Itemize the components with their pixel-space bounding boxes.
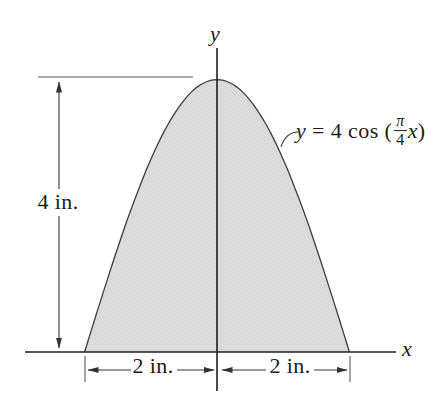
equation-close-paren: ) xyxy=(418,118,426,144)
width-dimension-label-left: 2 in. xyxy=(132,355,173,377)
equation-mid: = 4 cos ( xyxy=(306,118,392,144)
figure-canvas: y x 4 in. 2 in. 2 in. y = 4 cos (π4x) xyxy=(0,0,443,411)
fraction-denominator: 4 xyxy=(394,130,406,149)
width-dimension-label-right: 2 in. xyxy=(269,355,310,377)
fraction-pi-over-4: π4 xyxy=(394,113,406,149)
height-dimension-label: 4 in. xyxy=(37,191,78,213)
curve-equation: y = 4 cos (π4x) xyxy=(296,113,426,149)
equation-variable: x xyxy=(408,118,418,144)
x-axis-label: x xyxy=(402,338,412,360)
equation-lhs: y xyxy=(296,118,306,144)
y-axis-label: y xyxy=(210,23,220,45)
fraction-numerator: π xyxy=(394,113,406,130)
